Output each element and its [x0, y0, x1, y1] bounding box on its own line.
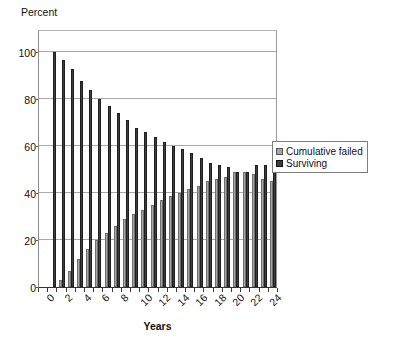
legend-item-cumulative-failed: Cumulative failed: [276, 145, 363, 157]
x-axis-tick-label-group: 024681012141618202224: [38, 292, 277, 322]
x-axis-tick-label-24: 24: [267, 292, 283, 308]
bar-series-group: [39, 31, 276, 287]
bar-surviving-year-2: [62, 60, 65, 288]
chart-figure: Percent 020406080100 0246810121416182022…: [0, 0, 394, 342]
y-axis-title: Percent: [21, 6, 57, 18]
bar-group-year-9: [122, 31, 131, 287]
bar-surviving-year-7: [108, 106, 111, 287]
bar-surviving-year-20: [227, 167, 230, 287]
bar-group-year-21: [232, 31, 241, 287]
bar-group-year-18: [204, 31, 213, 287]
bar-group-year-4: [76, 31, 85, 287]
bar-surviving-year-21: [236, 172, 239, 287]
bar-surviving-year-5: [89, 90, 92, 287]
y-axis-tick-label-20: 20: [24, 236, 36, 246]
chart-legend: Cumulative failed Surviving: [272, 141, 368, 173]
bar-group-year-23: [250, 31, 259, 287]
x-axis-tick-label-8: 8: [118, 292, 130, 304]
x-axis-tick-label-2: 2: [63, 292, 75, 304]
x-axis-tick-label-14: 14: [175, 292, 191, 308]
bar-surviving-year-17: [200, 158, 203, 287]
bar-group-year-7: [103, 31, 112, 287]
bar-surviving-year-12: [154, 137, 157, 287]
bar-group-year-22: [241, 31, 250, 287]
bar-surviving-year-14: [172, 146, 175, 287]
x-axis-title: Years: [38, 320, 277, 332]
bar-surviving-year-4: [80, 81, 83, 287]
bar-group-year-10: [131, 31, 140, 287]
bar-group-year-15: [177, 31, 186, 287]
bar-group-year-13: [159, 31, 168, 287]
bar-surviving-year-3: [71, 69, 74, 287]
plot-area: [38, 30, 277, 288]
legend-label-surviving: Surviving: [286, 158, 327, 169]
bar-group-year-14: [168, 31, 177, 287]
bar-group-year-0: [39, 31, 48, 287]
bar-surviving-year-11: [144, 132, 147, 287]
bar-surviving-year-13: [163, 142, 166, 287]
bar-group-year-8: [113, 31, 122, 287]
legend-label-cumulative-failed: Cumulative failed: [286, 146, 363, 157]
bar-group-year-2: [57, 31, 66, 287]
bar-surviving-year-22: [246, 172, 249, 287]
x-axis-tick-label-22: 22: [249, 292, 265, 308]
bar-surviving-year-16: [190, 153, 193, 287]
y-axis-tick-label-100: 100: [18, 48, 36, 58]
x-axis-tick-label-12: 12: [157, 292, 173, 308]
bar-surviving-year-8: [117, 113, 120, 287]
x-axis-tick-mark-26: [277, 288, 278, 292]
bar-surviving-year-23: [255, 165, 258, 287]
bar-group-year-19: [214, 31, 223, 287]
x-axis-tick-label-18: 18: [212, 292, 228, 308]
legend-swatch-icon-surviving: [276, 160, 283, 167]
y-axis-tick-group: 020406080100: [0, 30, 36, 288]
bar-group-year-11: [140, 31, 149, 287]
x-axis-tick-label-16: 16: [194, 292, 210, 308]
legend-item-surviving: Surviving: [276, 157, 363, 169]
x-axis-tick-label-20: 20: [230, 292, 246, 308]
x-axis-tick-label-0: 0: [45, 292, 57, 304]
y-axis-tick-label-80: 80: [24, 95, 36, 105]
bar-group-year-5: [85, 31, 94, 287]
x-axis-tick-label-6: 6: [100, 292, 112, 304]
bar-surviving-year-25: [273, 163, 276, 287]
bar-group-year-1: [48, 31, 57, 287]
bar-surviving-year-6: [98, 99, 101, 287]
bar-surviving-year-15: [181, 149, 184, 287]
x-axis-tick-label-4: 4: [82, 292, 94, 304]
bar-surviving-year-18: [209, 163, 212, 287]
bar-group-year-12: [149, 31, 158, 287]
y-axis-tick-label-40: 40: [24, 189, 36, 199]
bar-group-year-16: [186, 31, 195, 287]
legend-swatch-icon-cumulative-failed: [276, 148, 283, 155]
bar-surviving-year-10: [135, 128, 138, 287]
bar-group-year-6: [94, 31, 103, 287]
bar-group-year-17: [195, 31, 204, 287]
bar-group-year-3: [67, 31, 76, 287]
bar-surviving-year-24: [264, 165, 267, 287]
bar-group-year-20: [223, 31, 232, 287]
bar-surviving-year-9: [126, 120, 129, 287]
y-axis-tick-label-0: 0: [30, 283, 36, 293]
bar-surviving-year-1: [53, 52, 56, 287]
x-axis-tick-label-10: 10: [138, 292, 154, 308]
y-axis-tick-label-60: 60: [24, 142, 36, 152]
bar-surviving-year-19: [218, 165, 221, 287]
bar-group-year-24: [260, 31, 269, 287]
